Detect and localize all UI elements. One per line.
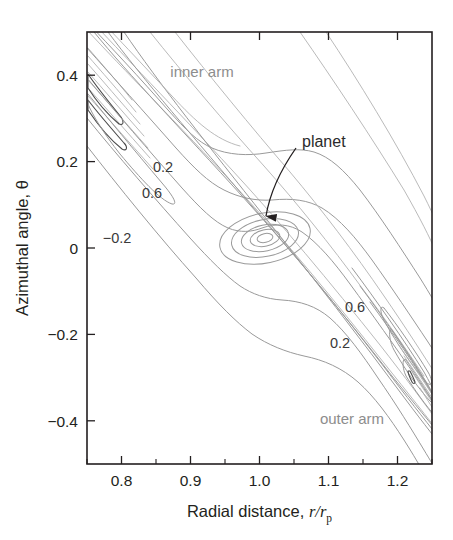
x-axis-title-subscript: p — [326, 512, 332, 525]
x-tick-label-1: 0.9 — [180, 472, 202, 489]
outer-arm-label: outer arm — [320, 410, 384, 427]
contour-figure: 0.8 0.9 1.0 1.1 1.2 0.4 0.2 0 −0.2 −0.4 … — [0, 0, 453, 540]
planet-label: planet — [302, 133, 346, 150]
y-tick-label-3: −0.2 — [47, 326, 78, 343]
x-tick-label-4: 1.2 — [387, 472, 409, 489]
figure-svg: 0.8 0.9 1.0 1.1 1.2 0.4 0.2 0 −0.2 −0.4 … — [0, 0, 453, 540]
contour-label-upper-0p6: 0.6 — [142, 185, 162, 201]
x-tick-label-0: 0.8 — [111, 472, 133, 489]
contour-label-left-neg-0p2: −0.2 — [103, 230, 132, 246]
x-tick-label-2: 1.0 — [249, 472, 271, 489]
y-tick-label-2: 0 — [69, 240, 78, 257]
x-axis-title-symbol: r/r — [309, 502, 327, 521]
inner-arm-label: inner arm — [170, 63, 233, 80]
y-tick-label-0: 0.4 — [56, 67, 78, 84]
contour-label-upper-0p2: 0.2 — [153, 159, 173, 175]
contour-label-lower-0p2: 0.2 — [330, 335, 350, 351]
contour-label-lower-0p6: 0.6 — [345, 299, 365, 315]
y-tick-label-4: −0.4 — [47, 413, 78, 430]
x-axis-title-main: Radial distance, — [187, 502, 309, 520]
y-tick-label-1: 0.2 — [56, 153, 78, 170]
x-tick-label-3: 1.1 — [318, 472, 340, 489]
y-axis-title: Azimuthal angle, θ — [13, 180, 31, 316]
